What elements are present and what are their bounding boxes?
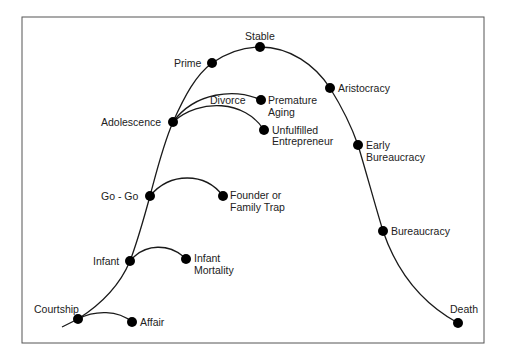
node-premature-aging <box>256 95 266 105</box>
label-gogo: Go - Go <box>101 190 139 202</box>
node-founder-trap <box>218 191 228 201</box>
label-bureaucracy: Bureaucracy <box>391 225 451 237</box>
label-infant-mortality-1: Infant <box>194 252 220 264</box>
label-infant-mortality-2: Mortality <box>194 264 234 276</box>
node-affair <box>127 317 137 327</box>
node-infant <box>125 256 135 266</box>
lifecycle-diagram: Courtship Affair Infant Infant Mortality… <box>0 0 513 360</box>
label-unfulfilled-2: Entrepreneur <box>272 135 334 147</box>
label-early-bureaucracy-2: Bureaucracy <box>366 151 426 163</box>
node-aristocracy <box>325 83 335 93</box>
label-founder-1: Founder or <box>230 189 282 201</box>
lifecycle-curve <box>62 47 458 327</box>
node-courtship <box>73 314 83 324</box>
label-founder-2: Family Trap <box>230 201 285 213</box>
node-stable <box>255 42 265 52</box>
label-stable: Stable <box>245 30 275 42</box>
label-premature-aging-1: Premature <box>268 94 317 106</box>
label-early-bureaucracy-1: Early <box>366 139 391 151</box>
label-divorce: Divorce <box>210 94 246 106</box>
node-infant-mortality <box>181 254 191 264</box>
label-aristocracy: Aristocracy <box>338 82 391 94</box>
label-infant: Infant <box>93 255 119 267</box>
node-prime <box>207 58 217 68</box>
label-death: Death <box>450 303 478 315</box>
label-premature-aging-2: Aging <box>268 106 295 118</box>
branch-infant-mortality <box>130 247 186 261</box>
label-prime: Prime <box>174 57 202 69</box>
node-death <box>453 318 463 328</box>
label-affair: Affair <box>140 316 165 328</box>
node-unfulfilled <box>259 125 269 135</box>
branch-unfulfilled <box>173 106 264 130</box>
label-adolescence: Adolescence <box>101 116 161 128</box>
branch-founder-trap <box>150 178 223 196</box>
node-bureaucracy <box>378 226 388 236</box>
node-early-bureaucracy <box>353 140 363 150</box>
node-gogo <box>145 191 155 201</box>
diagram-frame <box>22 17 484 343</box>
label-courtship: Courtship <box>34 303 79 315</box>
node-adolescence <box>168 117 178 127</box>
